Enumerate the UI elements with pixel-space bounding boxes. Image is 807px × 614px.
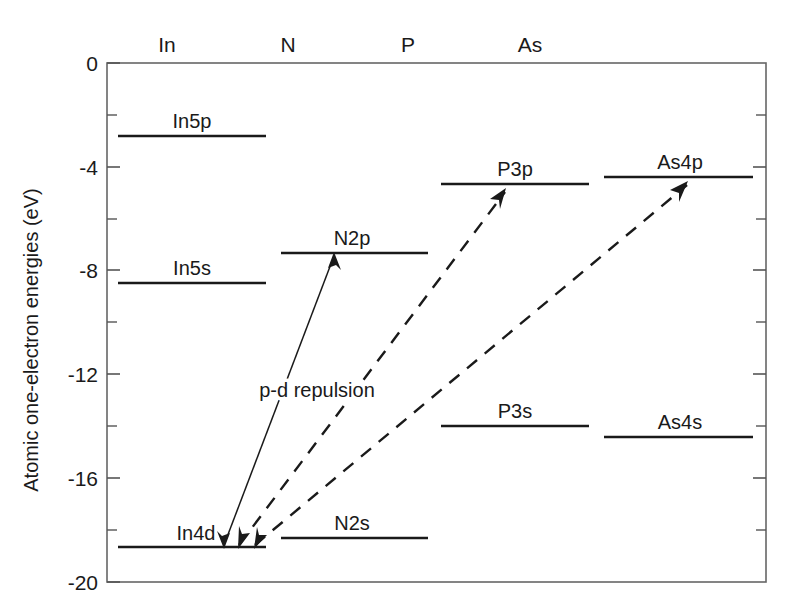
coupling-arrow-in4d-as4p	[254, 181, 688, 549]
level-label-as4p: As4p	[657, 151, 703, 173]
y-axis-right-minor-ticks	[756, 115, 766, 530]
level-label-p3p: P3p	[497, 158, 533, 180]
level-label-p3s: P3s	[498, 400, 532, 422]
level-label-as4s: As4s	[658, 411, 702, 433]
column-header-p: P	[401, 33, 415, 56]
coupling-arrow-in4d-p3p	[238, 188, 506, 549]
level-label-in5p: In5p	[173, 110, 212, 132]
y-axis-minor-ticks	[107, 115, 117, 530]
annotation-p-d-repulsion: p-d repulsion	[259, 379, 375, 401]
plot-canvas: 0 -4 -8 -12 -16 -20 Atomic one-electron …	[0, 0, 807, 614]
y-tick-label-minus20: -20	[68, 571, 98, 594]
column-header-as: As	[518, 33, 543, 56]
y-tick-label-minus4: -4	[79, 156, 98, 179]
y-tick-label-0: 0	[86, 52, 98, 75]
y-axis-title: Atomic one-electron energies (eV)	[20, 188, 42, 491]
level-label-n2p: N2p	[334, 227, 371, 249]
level-label-in4d: In4d	[177, 522, 216, 544]
column-header-in: In	[158, 33, 176, 56]
y-tick-label-minus8: -8	[79, 259, 98, 282]
column-header-n: N	[280, 33, 295, 56]
plot-frame	[107, 63, 766, 582]
y-tick-label-minus16: -16	[68, 467, 98, 490]
energy-level-diagram: 0 -4 -8 -12 -16 -20 Atomic one-electron …	[0, 0, 807, 614]
y-tick-label-minus12: -12	[68, 363, 98, 386]
level-label-in5s: In5s	[173, 257, 211, 279]
level-label-n2s: N2s	[334, 512, 370, 534]
